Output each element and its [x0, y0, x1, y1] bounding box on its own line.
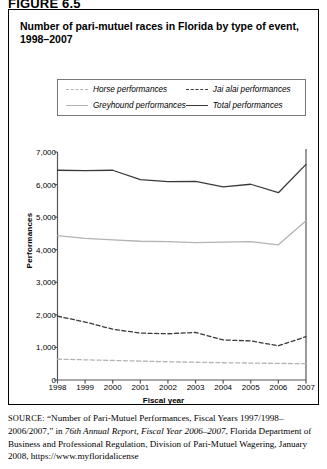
series-line-greyhound-performances [58, 221, 307, 245]
series-line-total-performances [58, 164, 307, 192]
x-tick-9: 2007 [297, 383, 315, 392]
chart-svg [0, 0, 327, 405]
figure-container: FIGURE 6.5 Number of pari-mutuel races i… [0, 0, 327, 469]
x-tick-1: 1999 [76, 383, 94, 392]
source-report-title: 76th Annual Report, Fiscal Year 2006–200… [65, 426, 226, 436]
x-tick-5: 2003 [187, 383, 205, 392]
x-tick-0: 1998 [49, 383, 67, 392]
plot-area: Performances 01,0002,0003,0004,0005,0006… [0, 0, 327, 405]
x-tick-4: 2002 [159, 383, 177, 392]
source-prefix: SOURCE: [8, 414, 45, 423]
x-tick-6: 2004 [214, 383, 232, 392]
x-tick-3: 2001 [131, 383, 149, 392]
x-tick-8: 2006 [269, 383, 287, 392]
x-axis-label: Fiscal year [0, 396, 327, 405]
series-line-jai-alai-performances [58, 316, 307, 346]
x-tick-2: 2000 [104, 383, 122, 392]
x-tick-7: 2005 [242, 383, 260, 392]
series-line-horse-performances [58, 359, 307, 364]
source-note: SOURCE: “Number of Pari-Mutuel Performan… [8, 412, 321, 462]
